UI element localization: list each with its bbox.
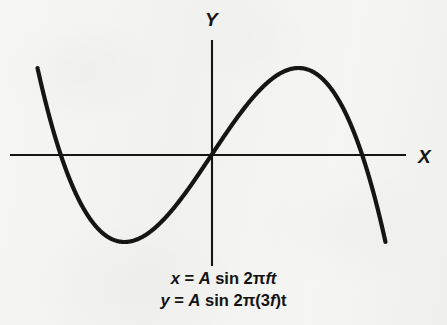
- equation-y-lhs: y: [161, 291, 170, 309]
- equation-x-amplitude: A: [199, 269, 211, 287]
- equation-line-x: x = A sin 2πft: [0, 267, 447, 289]
- equation-x-frequency-time: ft: [265, 269, 276, 287]
- lissajous-figure: Y X x = A sin 2πft y = A sin 2π(3f)t: [0, 0, 447, 325]
- equation-x-sine: sin 2: [211, 269, 253, 287]
- equation-y-sine: sin 2: [200, 291, 242, 309]
- equation-x-equals: =: [180, 269, 199, 287]
- y-axis-label: Y: [205, 9, 218, 31]
- equation-x-pi: π: [253, 269, 266, 287]
- equation-y-time: t: [281, 291, 287, 309]
- equation-y-pi: π: [243, 291, 256, 309]
- x-axis-label: X: [418, 146, 431, 168]
- equation-line-y: y = A sin 2π(3f)t: [0, 289, 447, 311]
- equation-x-lhs: x: [171, 269, 180, 287]
- equation-y-amplitude: A: [189, 291, 201, 309]
- equation-y-equals: =: [170, 291, 189, 309]
- equation-y-open-paren: (3: [255, 291, 270, 309]
- equations-block: x = A sin 2πft y = A sin 2π(3f)t: [0, 267, 447, 311]
